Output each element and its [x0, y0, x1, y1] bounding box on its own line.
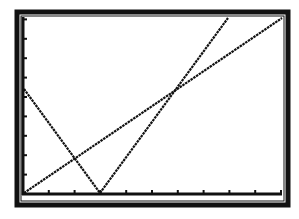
- graph-screen: [0, 0, 299, 219]
- outer-frame: [17, 12, 288, 205]
- plot-series: [24, 18, 282, 193]
- line-shallow-ascending: [24, 18, 282, 193]
- line-steep-ascending: [100, 18, 228, 193]
- line-descending: [24, 89, 100, 193]
